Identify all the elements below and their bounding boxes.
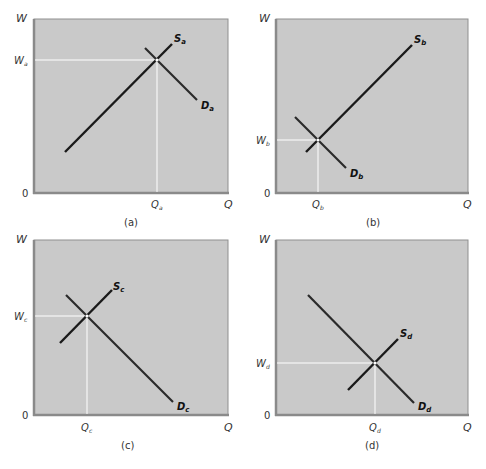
caption-d: (d): [365, 440, 379, 451]
eq-wage-label-b: Wb: [256, 135, 270, 147]
x-axis-label-c: Q: [224, 421, 233, 434]
eq-qty-label-a: Qa: [151, 199, 163, 211]
plot-area-b: [276, 19, 468, 193]
caption-b: (b): [366, 217, 380, 228]
plot-area-a: [34, 19, 228, 193]
y-axis-label-b: W: [259, 12, 271, 25]
y-axis-label-a: W: [16, 12, 28, 25]
plot-area-d: [276, 240, 468, 415]
panel-a: W 0 Q Wa Qa Sa Da (a): [14, 12, 233, 228]
eq-wage-label-d: Wd: [256, 358, 270, 370]
panel-d: W 0 Q Wd Qd Sd Dd (d): [256, 233, 472, 451]
caption-a: (a): [124, 217, 138, 228]
labor-market-figure: W 0 Q Wa Qa Sa Da (a) W 0 Q Wb Qb: [0, 0, 486, 469]
eq-qty-label-b: Qb: [312, 199, 324, 211]
origin-label-d: 0: [264, 410, 270, 421]
y-axis-label-d: W: [259, 233, 271, 246]
eq-wage-label-c: Wc: [14, 311, 28, 323]
x-axis-label-d: Q: [463, 421, 472, 434]
origin-label-c: 0: [22, 410, 28, 421]
origin-label-a: 0: [22, 188, 28, 199]
x-axis-label-b: Q: [463, 198, 472, 211]
plot-area-c: [34, 240, 228, 415]
eq-wage-label-a: Wa: [14, 55, 28, 67]
equilibrium-point-a: [155, 58, 158, 61]
equilibrium-point-b: [316, 138, 319, 141]
caption-c: (c): [121, 440, 134, 451]
eq-qty-label-d: Qd: [369, 422, 381, 434]
panel-b: W 0 Q Wb Qb Sb Db (b): [256, 12, 472, 228]
y-axis-label-c: W: [16, 233, 28, 246]
x-axis-label-a: Q: [224, 198, 233, 211]
eq-qty-label-c: Qc: [81, 422, 93, 434]
panel-c: W 0 Q Wc Qc Sc Dc (c): [14, 233, 233, 451]
equilibrium-point-d: [373, 361, 376, 364]
equilibrium-point-c: [85, 314, 88, 317]
origin-label-b: 0: [264, 188, 270, 199]
